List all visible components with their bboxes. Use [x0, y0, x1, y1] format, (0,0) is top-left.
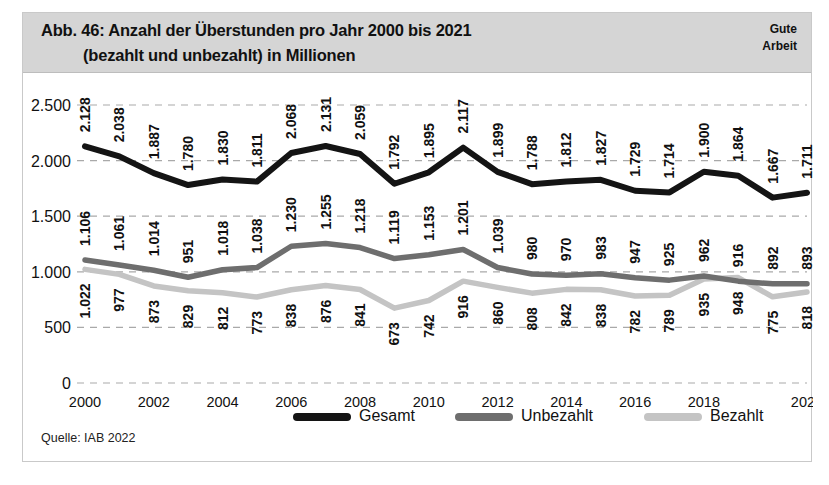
figure-title: Abb. 46: Anzahl der Überstunden pro Jahr…	[41, 18, 681, 68]
data-label: 1.218	[352, 198, 368, 233]
data-label: 1.899	[490, 123, 506, 158]
x-axis-tick-label: 2010	[413, 394, 445, 410]
y-axis-tick-label: 1.500	[31, 208, 71, 225]
data-label: 962	[696, 238, 712, 262]
data-label: 1.812	[558, 132, 574, 167]
y-axis-tick-label: 500	[44, 319, 71, 336]
figure-title-line1: Abb. 46: Anzahl der Überstunden pro Jahr…	[41, 21, 472, 39]
y-axis-tick-label: 0	[62, 375, 71, 392]
data-label: 1.038	[249, 218, 265, 253]
data-label: 773	[249, 311, 265, 335]
figure-container: Abb. 46: Anzahl der Überstunden pro Jahr…	[22, 12, 812, 462]
x-axis-tick-label: 2012	[481, 394, 513, 410]
data-label: 977	[111, 288, 127, 312]
data-label: 876	[318, 299, 334, 323]
x-axis-tick-label: 2016	[619, 394, 651, 410]
brand-label: Gute Arbeit	[762, 21, 797, 55]
data-label: 1.895	[421, 123, 437, 158]
data-label: 842	[558, 303, 574, 327]
source-note: Quelle: IAB 2022	[41, 431, 136, 445]
chart-plot-area: 05001.0001.5002.0002.5002000200220042006…	[23, 73, 813, 463]
data-label: 841	[352, 303, 368, 327]
data-label: 2.059	[352, 105, 368, 140]
data-label: 782	[627, 310, 643, 334]
data-label: 1.018	[215, 221, 231, 256]
legend-swatch-unbezahlt	[455, 413, 513, 421]
data-label: 673	[386, 322, 402, 346]
data-label: 1.153	[421, 206, 437, 241]
data-label: 812	[215, 306, 231, 330]
legend-swatch-gesamt	[293, 413, 351, 421]
data-label: 1.792	[386, 134, 402, 169]
data-label: 808	[524, 307, 540, 331]
data-label: 860	[490, 301, 506, 325]
data-label: 1.830	[215, 130, 231, 165]
data-label: 1.061	[111, 216, 127, 251]
data-label: 1.022	[77, 283, 93, 318]
data-label: 1.667	[765, 148, 781, 183]
legend-label-bezahlt: Bezahlt	[710, 407, 764, 424]
x-axis-tick-label: 2021	[791, 394, 813, 410]
data-label: 983	[593, 236, 609, 260]
data-label: 1.119	[386, 210, 402, 244]
y-axis-tick-label: 2.000	[31, 153, 71, 170]
data-label: 892	[765, 246, 781, 270]
legend-label-unbezahlt: Unbezahlt	[521, 407, 594, 424]
y-axis-tick-label: 1.000	[31, 264, 71, 281]
data-label: 742	[421, 314, 437, 338]
data-label: 1.039	[490, 218, 506, 253]
data-label: 829	[180, 305, 196, 329]
x-axis-tick-label: 2002	[138, 394, 170, 410]
data-label: 2.117	[455, 99, 471, 133]
data-label: 838	[283, 304, 299, 328]
data-label: 916	[730, 244, 746, 268]
data-label: 1.714	[661, 143, 677, 178]
data-label: 2.068	[283, 104, 299, 139]
data-label: 1.230	[283, 197, 299, 232]
data-label: 916	[455, 295, 471, 319]
data-label: 2.038	[111, 107, 127, 142]
x-axis-tick-label: 2004	[206, 394, 238, 410]
data-label: 1.255	[318, 194, 334, 229]
data-label: 1.900	[696, 122, 712, 157]
figure-header-band: Abb. 46: Anzahl der Überstunden pro Jahr…	[23, 13, 811, 73]
data-label: 789	[661, 309, 677, 333]
brand-line2: Arbeit	[762, 38, 797, 55]
data-label: 1.827	[593, 131, 609, 166]
data-label: 935	[696, 293, 712, 317]
legend-swatch-bezahlt	[644, 413, 702, 421]
data-label: 1.106	[77, 211, 93, 246]
figure-title-line2: (bezahlt und unbezahlt) in Millionen	[41, 43, 681, 68]
data-label: 1.729	[627, 141, 643, 176]
legend-label-gesamt: Gesamt	[359, 407, 416, 424]
data-label: 2.128	[77, 97, 93, 132]
data-label: 873	[146, 300, 162, 324]
data-label: 980	[524, 236, 540, 260]
data-label: 2.131	[318, 97, 334, 132]
data-label: 1.887	[146, 124, 162, 159]
data-label: 775	[765, 311, 781, 335]
data-label: 951	[180, 240, 196, 264]
data-label: 1.788	[524, 135, 540, 170]
brand-line1: Gute	[762, 21, 797, 38]
data-label: 1.201	[455, 200, 471, 235]
data-label: 1.864	[730, 126, 746, 161]
data-label: 818	[799, 306, 813, 330]
data-label: 1.780	[180, 136, 196, 171]
data-label: 893	[799, 246, 813, 270]
y-axis-tick-label: 2.500	[31, 97, 71, 114]
data-label: 1.014	[146, 221, 162, 256]
data-label: 925	[661, 243, 677, 267]
data-label: 1.711	[799, 144, 813, 178]
data-label: 970	[558, 238, 574, 262]
x-axis-tick-label: 2000	[69, 394, 101, 410]
data-label: 1.811	[249, 133, 265, 167]
line-chart: 05001.0001.5002.0002.5002000200220042006…	[23, 73, 813, 463]
data-label: 947	[627, 240, 643, 264]
x-axis-tick-label: 2006	[275, 394, 307, 410]
data-label: 948	[730, 291, 746, 315]
data-label: 838	[593, 304, 609, 328]
